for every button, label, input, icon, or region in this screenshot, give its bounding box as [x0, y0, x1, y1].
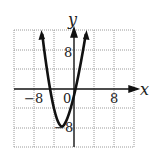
x-tick-0: 0: [63, 92, 71, 105]
curve-arrows: [39, 30, 90, 40]
x-tick-8: 8: [110, 92, 118, 105]
x-tick-neg8: −8: [24, 92, 43, 105]
y-tick-neg8: −8: [54, 121, 73, 134]
x-axis-label: x: [140, 82, 149, 98]
y-axis-label: y: [68, 12, 77, 28]
y-tick-8: 8: [64, 46, 72, 59]
